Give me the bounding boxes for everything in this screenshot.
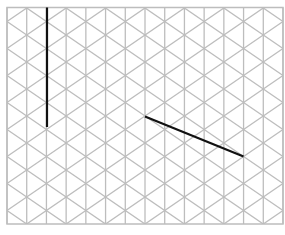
isometric-grid-diagram	[0, 0, 285, 235]
